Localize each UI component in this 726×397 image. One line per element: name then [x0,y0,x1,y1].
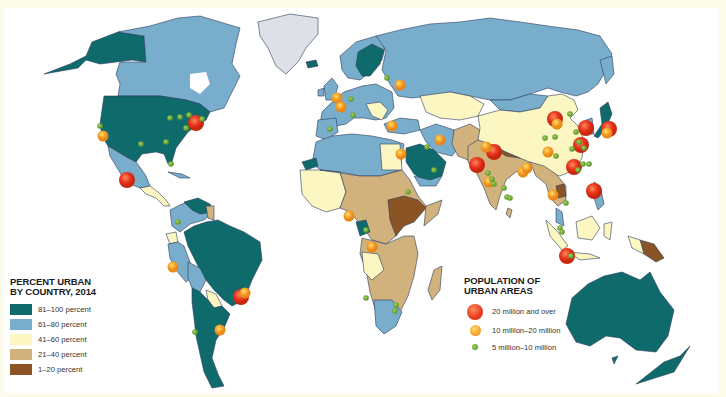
small-city-marker [573,129,579,135]
medium-city-marker [481,142,492,153]
small-city-marker [167,115,173,121]
small-city-marker [485,170,491,176]
small-city-marker [363,227,369,233]
medium-city-marker [98,131,109,142]
legend-pop-label: 5 million–10 million [492,343,556,352]
small-city-marker [199,116,205,122]
medium-city-marker [548,190,559,201]
large-city-dot-icon [467,304,483,320]
swatch-61-80 [10,319,32,330]
legend-urban-row: 61–80 percent [10,317,96,332]
small-city-marker [581,145,587,151]
legend-urban-label: 1–20 percent [38,365,82,374]
small-city-marker [177,114,183,120]
medium-city-marker [344,211,355,222]
small-city-marker [186,112,192,118]
legend-percent-urban: PERCENT URBAN BY COUNTRY, 2014 81–100 pe… [10,277,96,377]
small-city-marker [384,75,390,81]
medium-city-marker [522,163,533,174]
swatch-1-20 [10,364,32,375]
small-city-marker [183,125,189,131]
large-city-marker [578,120,594,136]
small-city-marker [586,161,592,167]
medium-city-dot-icon [470,325,481,336]
small-city-marker [580,161,586,167]
small-city-marker [192,329,198,335]
legend-population-urban-areas: POPULATION OF URBAN AREAS 20 million and… [464,276,560,355]
small-city-marker [97,123,103,129]
legend-urban-row: 41–60 percent [10,332,96,347]
small-city-marker [431,167,437,173]
medium-city-marker [395,80,406,91]
medium-city-marker [552,119,563,130]
medium-city-marker [602,128,613,139]
medium-city-marker [168,262,179,273]
swatch-41-60 [10,334,32,345]
legend-pop-row: 20 million and over [464,302,560,321]
small-city-marker [552,134,558,140]
medium-city-marker [336,102,347,113]
small-city-marker [567,111,573,117]
swatch-81-100 [10,304,32,315]
legend-urban-label: 41–60 percent [38,335,87,344]
legend-pop-label: 10 million–20 million [492,326,560,335]
medium-city-marker [543,147,554,158]
legend-urban-label: 61–80 percent [38,320,87,329]
swatch-21-40 [10,349,32,360]
world-map [0,0,726,397]
small-city-marker [542,135,548,141]
small-city-marker [501,185,507,191]
small-city-marker [363,295,369,301]
legend-pop-row: 5 million–10 million [464,339,560,355]
small-city-marker [327,126,333,132]
small-city-marker [350,112,356,118]
legend-urban-title-line2: BY COUNTRY, 2014 [10,287,96,297]
large-city-marker [469,157,485,173]
legend-urban-row: 81–100 percent [10,302,96,317]
legend-pop-label: 20 million and over [492,307,556,316]
small-city-marker [138,141,144,147]
small-city-marker [424,144,430,150]
small-city-marker [568,253,574,259]
small-city-marker [575,167,581,173]
small-city-marker [553,153,559,159]
small-city-marker [559,229,565,235]
medium-city-marker [367,242,378,253]
small-city-marker [405,189,411,195]
small-city-marker [576,139,582,145]
small-city-marker [175,219,181,225]
medium-city-marker [240,288,251,299]
legend-pop-title-line2: URBAN AREAS [464,286,560,296]
small-city-marker [489,176,495,182]
large-city-marker [566,159,582,175]
small-city-marker [491,181,497,187]
legend-urban-label: 81–100 percent [38,305,91,314]
small-city-marker [393,302,399,308]
small-city-marker [168,161,174,167]
russia [376,18,612,100]
small-city-marker [563,200,569,206]
small-city-marker [348,96,354,102]
small-city-marker [507,195,513,201]
medium-city-marker [435,135,446,146]
medium-city-marker [215,325,226,336]
legend-urban-label: 21–40 percent [38,350,87,359]
legend-urban-row: 1–20 percent [10,362,96,377]
large-city-marker [573,137,589,153]
small-city-marker [163,139,169,145]
medium-city-marker [396,149,407,160]
large-city-marker [119,172,135,188]
medium-city-marker [387,121,398,132]
large-city-marker [586,183,602,199]
small-city-marker [569,146,575,152]
legend-pop-row: 10 million–20 million [464,321,560,339]
legend-urban-row: 21–40 percent [10,347,96,362]
small-city-dot-icon [472,344,478,350]
small-city-marker [392,308,398,314]
